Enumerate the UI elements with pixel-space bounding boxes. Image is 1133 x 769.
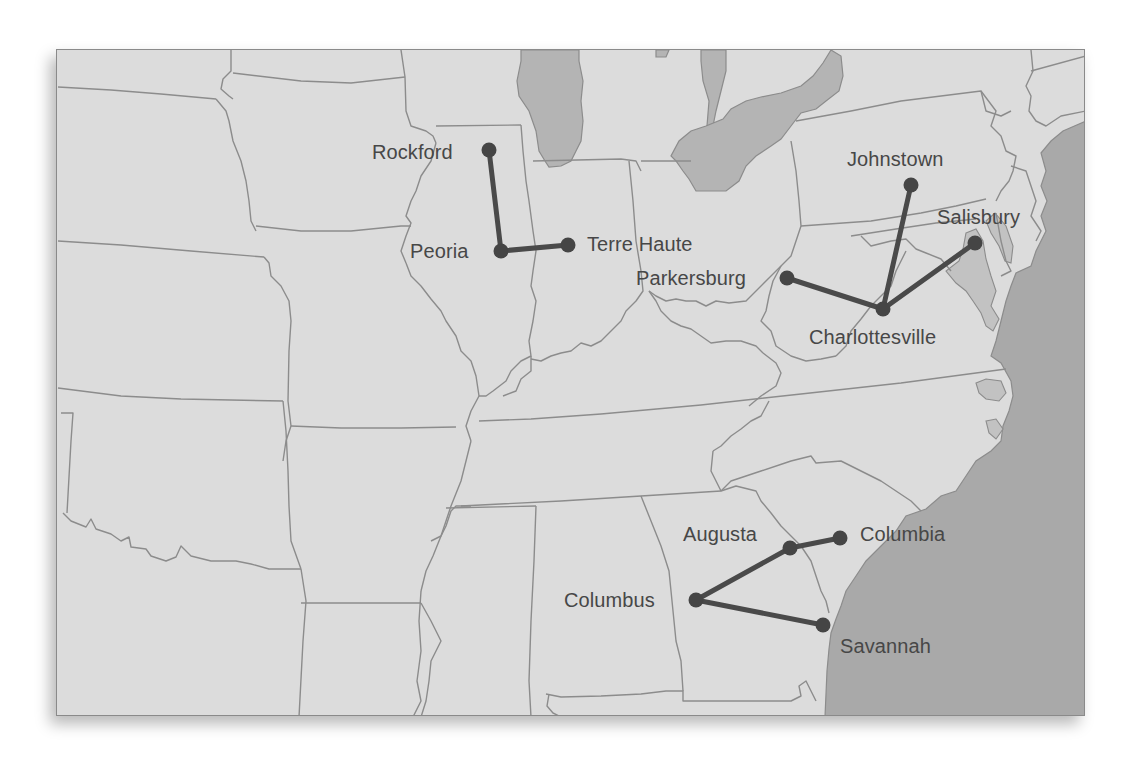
label-columbia: Columbia bbox=[860, 524, 945, 544]
route-parkersburg-charlottesville bbox=[787, 278, 883, 309]
label-peoria: Peoria bbox=[410, 241, 468, 261]
label-johnstown: Johnstown bbox=[847, 149, 944, 169]
route-columbus-savannah bbox=[696, 600, 823, 625]
city-marker-columbia bbox=[833, 531, 848, 546]
route-rockford-peoria bbox=[489, 150, 501, 251]
city-marker-savannah bbox=[816, 618, 831, 633]
label-salisbury: Salisbury bbox=[937, 207, 1020, 227]
pamlico-sound bbox=[976, 379, 1006, 401]
city-marker-parkersburg bbox=[780, 271, 795, 286]
lake-superior-edge bbox=[656, 50, 669, 57]
city-marker-terre-haute bbox=[561, 238, 576, 253]
label-rockford: Rockford bbox=[372, 142, 453, 162]
route-peoria-terre_haute bbox=[501, 245, 568, 251]
city-marker-augusta bbox=[783, 541, 798, 556]
label-columbus: Columbus bbox=[564, 590, 655, 610]
label-savannah: Savannah bbox=[840, 636, 931, 656]
label-parkersburg: Parkersburg bbox=[636, 268, 746, 288]
city-marker-salisbury bbox=[968, 236, 983, 251]
route-columbus-augusta bbox=[696, 548, 790, 600]
lake-erie bbox=[671, 50, 843, 191]
city-marker-charlottesville bbox=[876, 302, 891, 317]
city-marker-johnstown bbox=[904, 178, 919, 193]
city-marker-peoria bbox=[494, 244, 509, 259]
label-terre-haute: Terre Haute bbox=[587, 234, 693, 254]
label-charlottesville: Charlottesville bbox=[809, 327, 936, 347]
lake-michigan bbox=[517, 50, 583, 167]
albemarle-sound bbox=[986, 419, 1003, 439]
map-frame: Rockford Peoria Terre Haute Johnstown Sa… bbox=[56, 49, 1085, 716]
label-augusta: Augusta bbox=[683, 524, 757, 544]
city-marker-columbus bbox=[689, 593, 704, 608]
city-marker-rockford bbox=[482, 143, 497, 158]
